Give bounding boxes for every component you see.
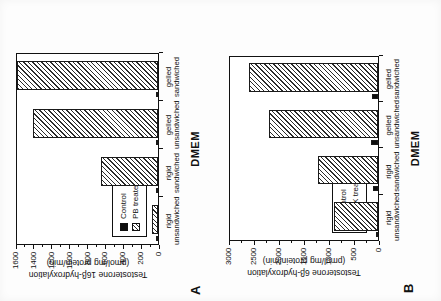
bar-control [372, 94, 379, 99]
panel-a: A Testosterone 16β-hydroxylation (pmol/m… [0, 0, 221, 301]
y-tick-label: 1000 [324, 248, 333, 301]
y-tick-minor [241, 241, 242, 244]
y-tick [379, 241, 380, 245]
bar-group [17, 52, 158, 100]
y-tick [105, 245, 106, 249]
y-tick [304, 241, 305, 245]
y-tick [51, 245, 52, 249]
bar-group [230, 101, 378, 147]
bar-pb-treated [33, 109, 158, 139]
y-tick-label: 500 [349, 248, 358, 301]
y-tick-minor [78, 245, 79, 248]
figure-page: A Testosterone 16β-hydroxylation (pmol/m… [0, 0, 441, 301]
y-tick [254, 241, 255, 245]
y-tick-label: 400 [118, 252, 127, 301]
y-tick [33, 245, 34, 249]
bar-control [156, 140, 158, 145]
bar-dex-treated [269, 110, 378, 139]
category-label: gelledunsandwiched [385, 102, 402, 148]
y-tick-label: 200 [136, 252, 145, 301]
y-tick-label: 2000 [274, 248, 283, 301]
y-tick [329, 241, 330, 245]
y-tick-minor [24, 245, 25, 248]
y-tick-label: 600 [100, 252, 109, 301]
y-tick [354, 241, 355, 245]
y-tick-label: 0 [374, 248, 383, 301]
bar-dex-treated [249, 63, 379, 92]
y-tick-minor [366, 241, 367, 244]
y-tick [229, 241, 230, 245]
bar-dex-treated [334, 202, 378, 231]
y-tick-minor [96, 245, 97, 248]
panel-b-group-label: DMEM [409, 131, 421, 167]
y-tick-minor [341, 241, 342, 244]
y-tick-label: 1500 [299, 248, 308, 301]
y-tick [279, 241, 280, 245]
bar-pb-treated [17, 61, 158, 91]
legend-swatch-treated [132, 223, 140, 231]
bar-group [230, 55, 378, 101]
y-tick-label: 1200 [47, 252, 56, 301]
x-tick [159, 196, 163, 197]
category-label-line: unsandwiched [173, 197, 181, 245]
legend-swatch-control [120, 223, 128, 231]
x-tick [159, 100, 163, 101]
bar-control [156, 92, 158, 97]
category-label-line: unsandwiched [173, 101, 181, 149]
category-label-line: unsandwiched [393, 195, 401, 241]
y-tick-label: 800 [83, 252, 92, 301]
category-label-line: sandwiched [393, 56, 401, 102]
y-tick-minor [266, 241, 267, 244]
bar-control [376, 232, 378, 237]
x-tick [159, 52, 163, 53]
panel-a-chart: A Testosterone 16β-hydroxylation (pmol/m… [0, 0, 221, 301]
category-label-line: sandwiched [393, 149, 401, 195]
y-tick-minor [316, 241, 317, 244]
bar-pb-treated [152, 205, 158, 235]
y-tick-label: 1600 [11, 252, 20, 301]
bar-control [156, 188, 158, 193]
legend-label: PB treated [131, 181, 140, 219]
category-label: gelledsandwiched [385, 56, 402, 102]
category-label: gelledunsandwiched [165, 101, 182, 149]
panel-a-group-label: DMEM [189, 131, 201, 167]
y-tick-minor [114, 245, 115, 248]
category-label: rigidunsandwiched [165, 197, 182, 245]
bar-pb-treated [101, 157, 158, 187]
y-tick-minor [291, 241, 292, 244]
y-tick [159, 245, 160, 249]
y-tick [123, 245, 124, 249]
panel-a-letter: A [188, 286, 203, 295]
bar-dex-treated [318, 156, 379, 185]
y-tick-label: 1000 [65, 252, 74, 301]
y-tick-minor [60, 245, 61, 248]
category-label: rigidunsandwiched [385, 195, 402, 241]
bar-group [17, 100, 158, 148]
y-tick [87, 245, 88, 249]
legend-item: PB treated [130, 181, 141, 231]
y-tick-minor [150, 245, 151, 248]
panel-b: B Testosterone 6β-hydroxylation (pmol/mg… [213, 0, 441, 301]
x-tick [379, 194, 383, 195]
y-tick-minor [42, 245, 43, 248]
bar-control [373, 186, 379, 191]
y-tick-label: 0 [154, 252, 163, 301]
y-tick-label: 1400 [29, 252, 38, 301]
panel-b-plot-area [229, 56, 379, 241]
category-label-line: unsandwiched [393, 102, 401, 148]
y-tick-minor [132, 245, 133, 248]
category-label: rigidsandwiched [385, 149, 402, 195]
x-tick [379, 101, 383, 102]
panel-b-letter: B [401, 284, 416, 293]
category-label-line: sandwiched [173, 53, 181, 101]
y-tick [16, 245, 17, 249]
category-label-line: sandwiched [173, 149, 181, 197]
y-tick [141, 245, 142, 249]
x-tick [379, 55, 383, 56]
legend-item: Control [118, 181, 129, 231]
bar-control [371, 140, 379, 145]
category-label: gelledsandwiched [165, 53, 182, 101]
panel-b-chart: B Testosterone 6β-hydroxylation (pmol/mg… [213, 0, 441, 301]
y-tick-label: 2500 [249, 248, 258, 301]
panel-b-bars [230, 57, 378, 240]
